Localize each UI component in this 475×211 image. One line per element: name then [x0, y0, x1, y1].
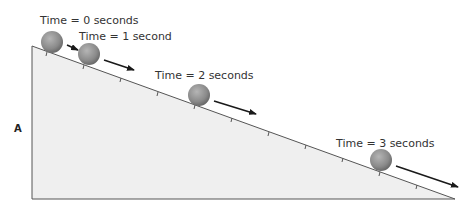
- ball-t2: [188, 84, 210, 106]
- point-a-label: A: [14, 123, 22, 134]
- ball-t0: [41, 31, 63, 53]
- velocity-arrow-t2: [214, 101, 256, 114]
- incline-diagram: A Time = 0 seconds Time = 1 second Time …: [0, 0, 475, 211]
- velocity-arrow-t0: [67, 45, 78, 50]
- ball-t3: [370, 149, 392, 171]
- velocity-arrow-t1: [104, 60, 134, 70]
- time-label-2: Time = 2 seconds: [154, 69, 254, 82]
- time-label-0: Time = 0 seconds: [39, 14, 139, 27]
- time-label-1: Time = 1 second: [78, 30, 172, 43]
- ball-t1: [78, 43, 100, 65]
- time-label-3: Time = 3 seconds: [335, 137, 435, 150]
